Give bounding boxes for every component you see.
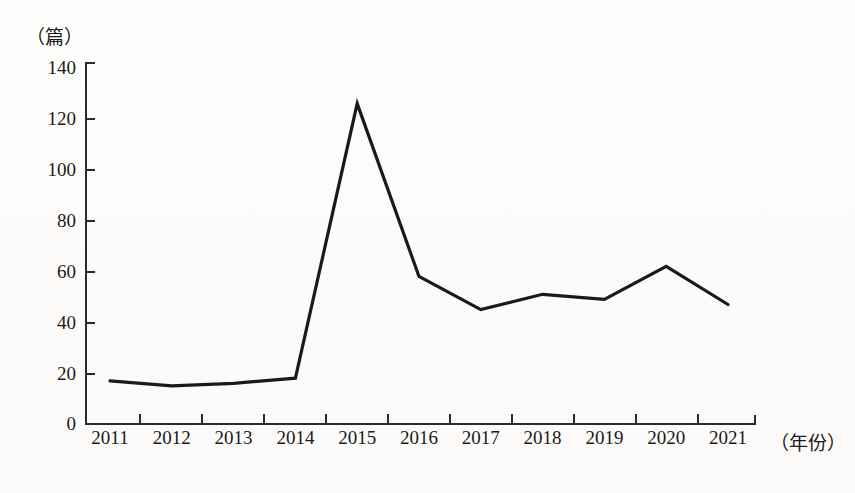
x-tick-label-2017: 2017	[446, 428, 516, 447]
y-tick-label-100: 100	[18, 160, 76, 179]
y-tick-label-60: 60	[18, 262, 76, 281]
y-axis-ticks	[86, 119, 95, 374]
axis-lines	[85, 62, 756, 425]
x-tick-label-2018: 2018	[508, 428, 578, 447]
y-tick-label-20: 20	[18, 364, 76, 383]
y-tick-label-80: 80	[18, 211, 76, 230]
line-chart: （篇） （年份） 1	[0, 0, 855, 493]
x-tick-label-2014: 2014	[260, 428, 330, 447]
data-series-line	[110, 104, 728, 386]
x-tick-label-2015: 2015	[322, 428, 392, 447]
plot-area	[0, 0, 855, 493]
y-tick-label-120: 120	[18, 109, 76, 128]
x-tick-label-2012: 2012	[137, 428, 207, 447]
x-tick-label-2011: 2011	[75, 428, 145, 447]
x-tick-label-2013: 2013	[199, 428, 269, 447]
x-tick-label-2019: 2019	[569, 428, 639, 447]
x-tick-label-2021: 2021	[693, 428, 763, 447]
y-tick-label-40: 40	[18, 313, 76, 332]
x-tick-label-2016: 2016	[384, 428, 454, 447]
y-tick-label-140: 140	[18, 58, 76, 77]
y-tick-label-0: 0	[18, 414, 76, 433]
x-tick-label-2020: 2020	[631, 428, 701, 447]
x-axis-ticks	[140, 414, 698, 424]
